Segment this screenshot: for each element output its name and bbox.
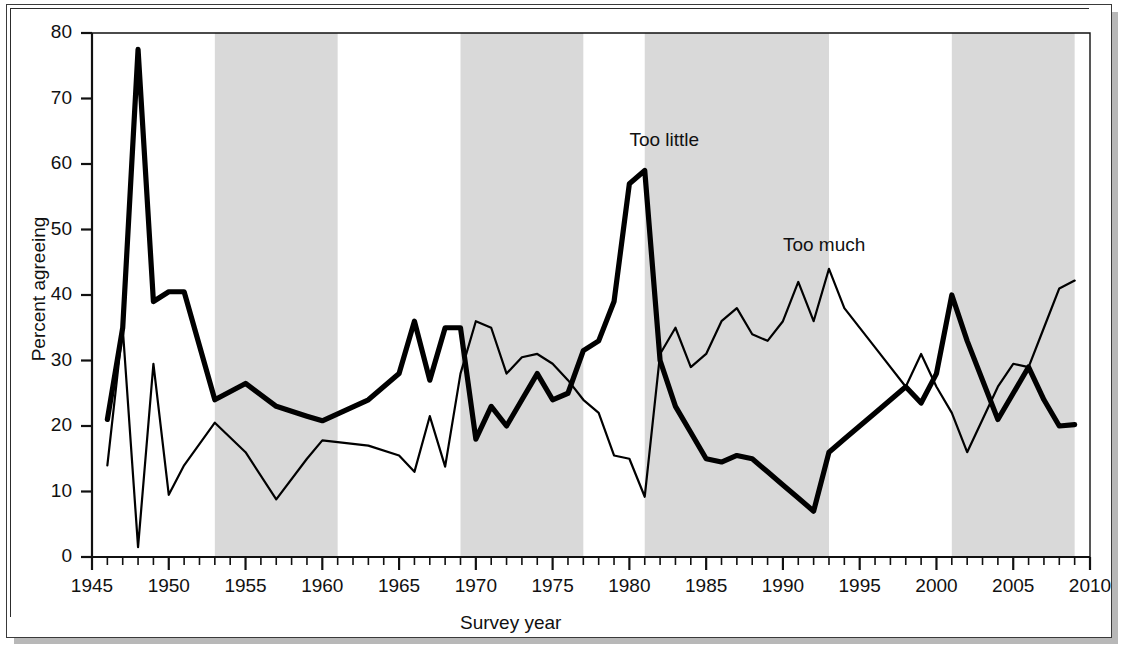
x-tick-label: 1970 [450, 575, 502, 597]
series-annotation: Too little [629, 129, 699, 151]
y-tick-label: 10 [20, 480, 72, 502]
x-tick-label: 1945 [66, 575, 118, 597]
y-tick-label: 70 [20, 87, 72, 109]
line-chart [0, 0, 1138, 666]
x-tick-label: 1960 [296, 575, 348, 597]
x-tick-label: 2010 [1064, 575, 1116, 597]
x-tick-label: 1975 [527, 575, 579, 597]
shaded-band [215, 33, 338, 557]
shaded-band [645, 33, 829, 557]
y-tick-label: 20 [20, 414, 72, 436]
x-tick-label: 1985 [680, 575, 732, 597]
shaded-bands [215, 33, 1075, 557]
y-tick-label: 40 [20, 283, 72, 305]
shaded-band [460, 33, 583, 557]
x-tick-label: 1950 [143, 575, 195, 597]
x-tick-label: 2000 [910, 575, 962, 597]
chart-page: Percent agreeing Survey year 19451950195… [0, 0, 1138, 666]
x-tick-label: 2005 [987, 575, 1039, 597]
x-tick-label: 1980 [603, 575, 655, 597]
x-tick-label: 1955 [220, 575, 272, 597]
x-axis-title: Survey year [460, 612, 561, 634]
x-tick-label: 1995 [834, 575, 886, 597]
x-tick-label: 1990 [757, 575, 809, 597]
y-tick-label: 80 [20, 21, 72, 43]
y-tick-label: 60 [20, 152, 72, 174]
y-tick-label: 0 [20, 545, 72, 567]
y-tick-label: 50 [20, 218, 72, 240]
series-annotation: Too much [783, 234, 865, 256]
x-tick-label: 1965 [373, 575, 425, 597]
y-tick-label: 30 [20, 349, 72, 371]
